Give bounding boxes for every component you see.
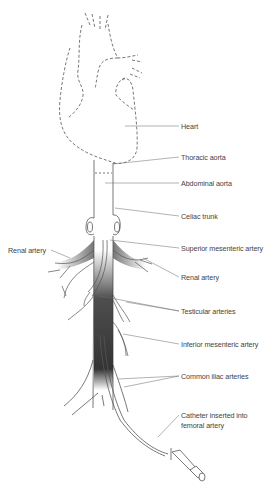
label-inferior-mesenteric-artery: Inferior mesenteric artery — [181, 340, 258, 349]
label-superior-mesenteric-artery: Superior mesenteric artery — [181, 244, 263, 253]
label-testicular-arteries: Testicular arteries — [181, 307, 235, 316]
label-common-iliac-arteries: Common iliac arteries — [181, 372, 248, 381]
label-celiac-trunk: Celiac trunk — [181, 212, 218, 221]
label-thoracic-aorta: Thoracic aorta — [181, 153, 226, 162]
label-heart: Heart — [181, 122, 198, 131]
label-abdominal-aorta: Abdominal aorta — [181, 179, 232, 188]
catheter — [100, 335, 205, 481]
label-catheter-line1: Catheter inserted into — [181, 411, 248, 420]
label-renal-artery-right: Renal artery — [181, 273, 219, 282]
leader-lines — [51, 126, 179, 437]
label-catheter-line2: femoral artery — [181, 421, 224, 430]
heart-outline — [60, 13, 142, 163]
label-renal-artery-left: Renal artery — [8, 246, 46, 255]
